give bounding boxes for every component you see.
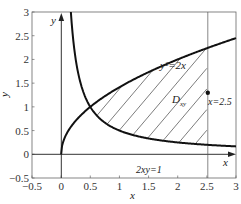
chart: −0.500.511.522.53−0.500.511.522.53 y²=2x… bbox=[0, 0, 241, 204]
shaded-region-hatch bbox=[97, 49, 207, 144]
plot-frame bbox=[32, 12, 236, 178]
y-axis-arrow-icon bbox=[59, 13, 65, 21]
x-axis-arrow-icon bbox=[228, 152, 236, 158]
label-region: Dxy bbox=[171, 93, 187, 108]
y-tick-label: 0.5 bbox=[15, 125, 29, 137]
x-tick-label: 0 bbox=[58, 180, 64, 192]
y-tick-label: 1 bbox=[24, 101, 30, 113]
label-curve1: y²=2x bbox=[159, 59, 186, 71]
y-tick-label: 2.5 bbox=[15, 30, 29, 42]
y-tick-label: 0 bbox=[24, 148, 30, 160]
x-tick-label: 2.5 bbox=[200, 180, 214, 192]
x-tick-label: 0.5 bbox=[83, 180, 97, 192]
x-tick-label: 1 bbox=[117, 180, 123, 192]
x-tick-label: 1.5 bbox=[142, 180, 156, 192]
y-tick-label: 3 bbox=[24, 6, 30, 18]
y-tick-label: 1.5 bbox=[15, 77, 29, 89]
curve-2xy-eq-1 bbox=[71, 12, 236, 146]
y-tick-label: 2 bbox=[24, 53, 30, 65]
x-tick-label: 3 bbox=[233, 180, 239, 192]
label-curve2: 2xy=1 bbox=[136, 164, 162, 175]
tick-marks bbox=[32, 12, 236, 178]
x-axis-label: x bbox=[129, 189, 135, 201]
point-marker bbox=[206, 91, 210, 95]
label-x-arrow: x bbox=[222, 156, 228, 168]
label-y-arrow: y bbox=[50, 14, 56, 26]
label-vline: x=2.5 bbox=[207, 96, 232, 107]
y-tick-label: −0.5 bbox=[9, 172, 29, 184]
tick-labels: −0.500.511.522.53−0.500.511.522.53 bbox=[9, 6, 239, 192]
y-axis-label: y bbox=[0, 92, 10, 98]
x-tick-label: 2 bbox=[175, 180, 181, 192]
